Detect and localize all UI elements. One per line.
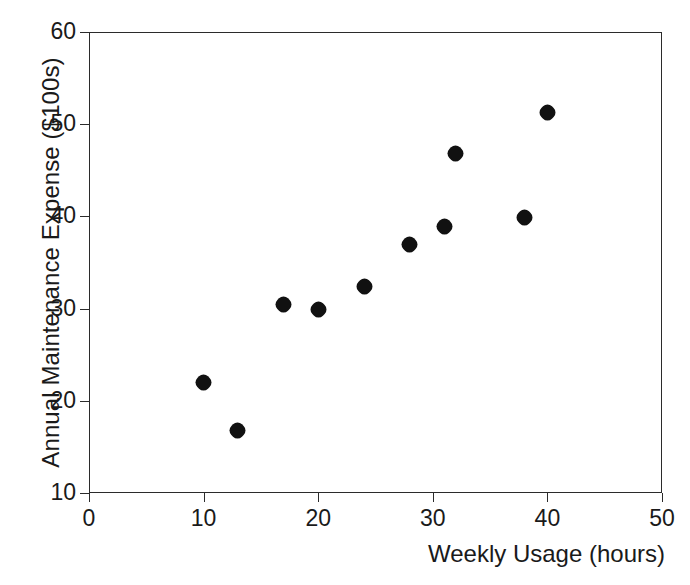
y-axis-tick — [80, 124, 89, 125]
x-axis-tick — [662, 493, 663, 502]
y-axis-tick — [80, 32, 89, 33]
x-axis-tick-label: 30 — [393, 505, 473, 531]
plot-area-frame — [89, 32, 662, 493]
x-axis-tick — [433, 493, 434, 502]
y-axis-tick — [80, 401, 89, 402]
y-axis-tick — [80, 309, 89, 310]
scatter-plot-figure: 102030405060 01020304050 Annual Maintena… — [0, 0, 690, 585]
x-axis-tick-label: 10 — [164, 505, 244, 531]
x-axis-tick-label: 50 — [622, 505, 690, 531]
y-axis-title: Annual Maintenance Expense ($100s) — [34, 32, 68, 493]
y-axis-tick — [80, 493, 89, 494]
x-axis-title: Weekly Usage (hours) — [320, 540, 665, 568]
x-axis-tick — [318, 493, 319, 502]
x-axis-tick-label: 40 — [507, 505, 587, 531]
x-axis-tick — [204, 493, 205, 502]
x-axis-tick-label: 0 — [49, 505, 129, 531]
x-axis-tick-label: 20 — [278, 505, 358, 531]
x-axis-tick — [547, 493, 548, 502]
x-axis-tick — [89, 493, 90, 502]
y-axis-tick — [80, 216, 89, 217]
